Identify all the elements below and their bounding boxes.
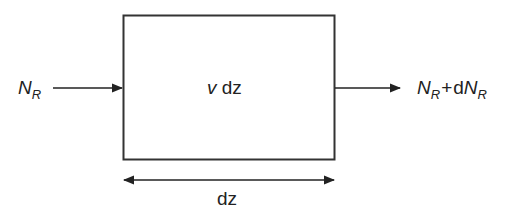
- output-subscript-2: R: [478, 87, 487, 102]
- diagram-canvas: [0, 0, 519, 212]
- box-label-variable: v: [207, 77, 217, 98]
- output-subscript: R: [431, 87, 440, 102]
- output-operator: +: [441, 77, 452, 98]
- input-symbol: N: [18, 77, 32, 98]
- input-subscript: R: [32, 87, 41, 102]
- output-prefix: d: [453, 77, 464, 98]
- output-flux-label: NR+dNR: [417, 78, 487, 97]
- input-flux-label: NR: [18, 78, 41, 97]
- box-label: v dz: [207, 78, 242, 97]
- width-label: dz: [217, 189, 237, 208]
- output-symbol: N: [417, 77, 431, 98]
- box-label-rest: dz: [217, 77, 242, 98]
- output-symbol-2: N: [464, 77, 478, 98]
